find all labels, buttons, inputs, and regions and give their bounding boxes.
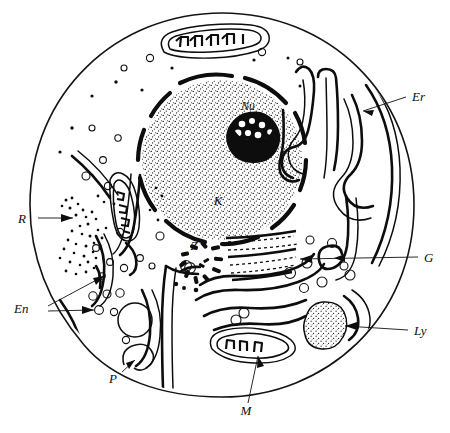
label-K: K <box>213 193 224 208</box>
label-Nu: Nu <box>240 100 255 112</box>
vacuole <box>118 303 152 337</box>
label-Z: Z <box>190 238 198 253</box>
label-Ly: Ly <box>413 323 427 338</box>
cell-diagram-figure: Er G Ly M P En R K Nu Z <box>0 0 450 433</box>
microtubule-solid <box>226 231 296 280</box>
mitochondrion-bottom <box>210 328 295 363</box>
label-P: P <box>108 371 117 386</box>
label-M: M <box>240 403 253 418</box>
label-R: R <box>17 211 26 226</box>
cell-diagram-svg: Er G Ly M P En R K Nu Z <box>0 0 450 433</box>
mitochondrion-top <box>161 24 269 58</box>
smooth-er-tubules <box>52 151 161 368</box>
label-En: En <box>13 301 28 316</box>
label-Er: Er <box>411 89 426 104</box>
lysosome <box>304 302 347 349</box>
label-G: G <box>424 250 434 265</box>
